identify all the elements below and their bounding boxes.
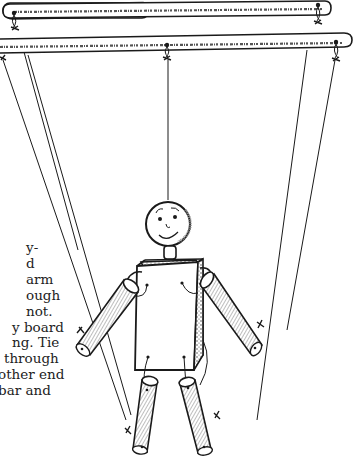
text-line: d <box>0 256 118 272</box>
puppet-neck <box>164 246 176 259</box>
lower-control-bar <box>0 33 352 53</box>
text-line: bar and <box>0 383 118 399</box>
puppet-right-arm <box>198 268 264 358</box>
text-line: arm <box>0 272 118 288</box>
puppet-head <box>146 202 190 246</box>
puppet-right-leg <box>178 376 220 457</box>
upper-control-bar-full <box>3 1 331 18</box>
puppet-left-leg <box>125 375 159 455</box>
text-line: through <box>0 351 118 367</box>
text-line: y board <box>0 320 118 336</box>
instruction-text: y- d arm ough not. y board ng. Tie throu… <box>0 240 118 399</box>
text-line: ng. Tie <box>0 335 118 351</box>
text-line: other end <box>0 367 118 383</box>
text-line: not. <box>0 304 118 320</box>
text-line: y- <box>0 240 118 256</box>
puppet-body <box>132 259 207 390</box>
text-line: ough <box>0 288 118 304</box>
document-page: y- d arm ough not. y board ng. Tie throu… <box>0 0 355 459</box>
